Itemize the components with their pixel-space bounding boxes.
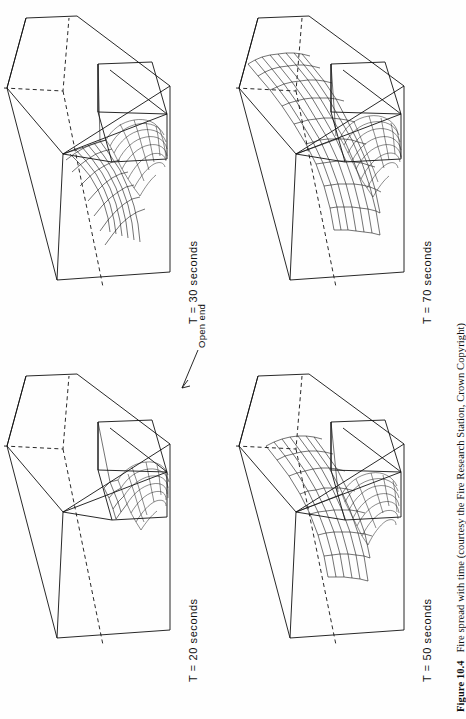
time-label-t20: T = 20 seconds: [187, 598, 199, 682]
wireframe-t50: [228, 362, 443, 692]
open-end-arrow: [176, 348, 202, 394]
panel-t30: T = 30 seconds: [0, 4, 200, 334]
figure-caption-text: Fire spread with time (courtesy the Fire…: [455, 323, 466, 653]
open-end-label: Open end: [196, 304, 207, 348]
wireframe-t20: [0, 362, 200, 692]
figure-caption-number: Figure 10.4: [455, 660, 466, 712]
wireframe-t30: [0, 4, 200, 334]
time-label-t50: T = 50 seconds: [421, 598, 433, 682]
panel-t50: T = 50 seconds: [228, 362, 443, 692]
time-label-t70: T = 70 seconds: [421, 240, 433, 324]
panel-t20: T = 20 seconds: [0, 362, 200, 692]
figure-caption: Figure 10.4 Fire spread with time (court…: [455, 323, 466, 712]
wireframe-t70: [228, 4, 443, 334]
panel-t70: T = 70 seconds: [228, 4, 443, 334]
